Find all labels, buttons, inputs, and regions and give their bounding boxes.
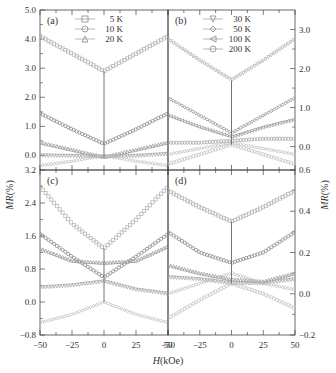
panel-label: (c): [47, 175, 58, 187]
legend-entry: 20 K: [105, 34, 123, 44]
x-tick-label: −25: [65, 340, 80, 350]
y-tick-label: 1.6: [25, 231, 37, 241]
series-100-k: [166, 114, 295, 138]
y-tick-label: 0.4: [299, 206, 311, 216]
legend-entry: 5 K: [110, 14, 124, 24]
panels: 5.04.03.02.01.00.0(a)5 K10 K20 K3.02.01.…: [20, 5, 316, 350]
y-axis-label-right: MR(%): [319, 180, 331, 210]
y-tick-label: 5.0: [25, 5, 37, 15]
mr-figure: 5.04.03.02.01.00.0(a)5 K10 K20 K3.02.01.…: [0, 0, 336, 373]
y-tick-label: 1.0: [299, 103, 311, 113]
x-axis-label: H(kOe): [152, 355, 184, 367]
legend-entry: 50 K: [233, 24, 251, 34]
y-tick-label: −0.2: [299, 330, 315, 340]
panel-label: (a): [47, 15, 58, 27]
y-tick-label: 0.0: [299, 142, 311, 152]
y-tick-label: 0.6: [299, 165, 311, 175]
series-50-k: [166, 96, 295, 134]
legend-entry: 100 K: [229, 34, 252, 44]
series-curve-2: [166, 230, 295, 264]
x-tick-label: −50: [33, 340, 48, 350]
panel-b: 3.02.01.00.0(b)30 K50 K100 K200 K: [166, 10, 310, 170]
y-tick-label: 3.0: [25, 63, 37, 73]
legend-entry: 10 K: [105, 24, 123, 34]
panel-c: −50−25025503.22.41.60.80.0−0.8(c): [20, 165, 173, 350]
legend-entry: 200 K: [229, 44, 252, 54]
x-tick-label: 0: [102, 340, 107, 350]
x-tick-label: −25: [193, 340, 208, 350]
x-tick-label: −50: [161, 340, 176, 350]
y-tick-label: 0.0: [25, 297, 37, 307]
series-curve-4: [38, 280, 168, 295]
legend: 30 K50 K100 K200 K: [203, 14, 252, 54]
y-tick-label: 2.0: [25, 92, 37, 102]
panel-label: (b): [175, 15, 187, 27]
panel-label: (d): [175, 175, 187, 187]
y-tick-label: 2.0: [299, 64, 311, 74]
x-tick-label: 25: [259, 340, 269, 350]
x-tick-label: 0: [229, 340, 234, 350]
legend: 5 K10 K20 K: [75, 14, 124, 44]
series-curve-6: [166, 143, 295, 165]
series-10-k: [38, 112, 168, 145]
legend-entry: 30 K: [233, 14, 251, 24]
y-tick-label: 0.8: [25, 264, 37, 274]
series-curve-5: [38, 301, 168, 325]
y-tick-label: 3.2: [25, 165, 36, 175]
y-tick-label: 0.0: [25, 150, 37, 160]
y-tick-label: −0.8: [20, 330, 37, 340]
y-tick-label: 2.4: [25, 198, 37, 208]
panel-a: 5.04.03.02.01.00.0(a)5 K10 K20 K: [25, 5, 169, 170]
y-tick-label: 0.0: [299, 289, 311, 299]
series-curve-1: [38, 185, 168, 249]
y-axis-label-left: MR(%): [4, 180, 16, 210]
y-tick-label: 4.0: [25, 34, 37, 44]
x-tick-label: 50: [291, 340, 301, 350]
y-tick-label: 0.2: [299, 248, 310, 258]
panel-d: −50−25025500.60.40.20.0−0.2(d): [161, 165, 315, 350]
x-tick-label: 25: [132, 340, 142, 350]
y-tick-label: 1.0: [25, 121, 37, 131]
series-curve-1: [166, 189, 295, 223]
y-tick-label: 3.0: [299, 25, 311, 35]
series-5-k: [38, 35, 168, 73]
